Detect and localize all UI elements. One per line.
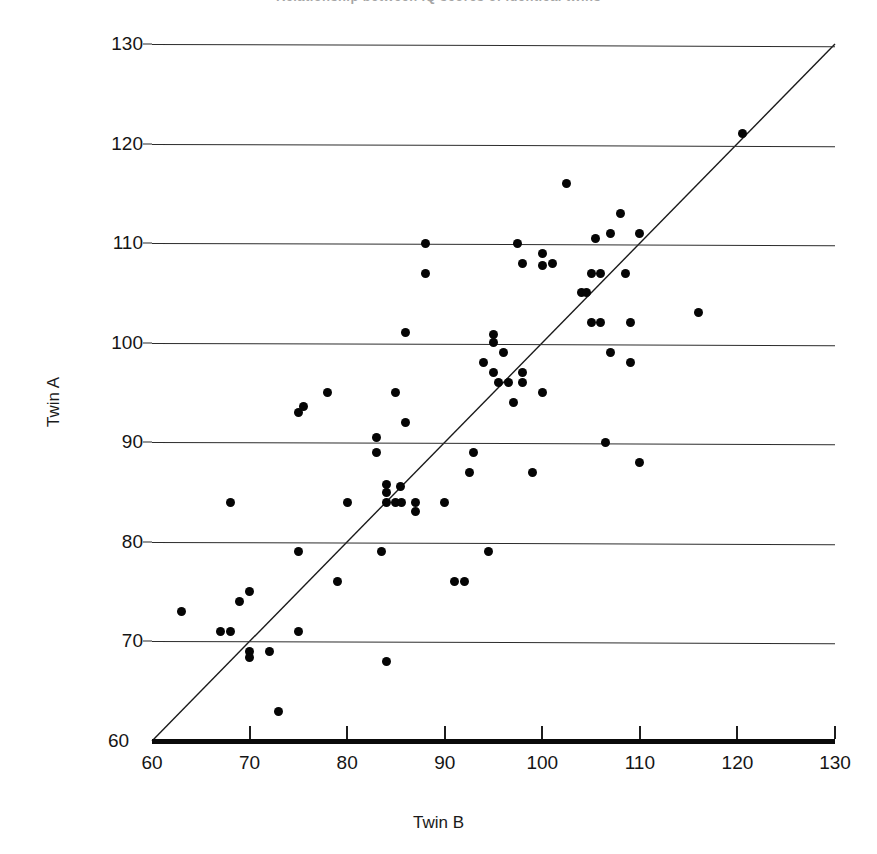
x-tick-label-110: 110 bbox=[625, 752, 655, 774]
data-point bbox=[538, 249, 547, 258]
data-point bbox=[538, 261, 547, 270]
data-point bbox=[465, 468, 474, 477]
x-tick-mark-110 bbox=[639, 726, 641, 739]
data-point bbox=[382, 488, 391, 497]
data-point bbox=[616, 209, 625, 218]
data-point bbox=[601, 438, 610, 447]
y-tick-label-90: 90 bbox=[122, 431, 143, 453]
y-tick-mark-80 bbox=[143, 541, 152, 542]
y-tick-mark-100 bbox=[143, 342, 152, 343]
x-axis-title: Twin B bbox=[0, 813, 877, 833]
data-point bbox=[382, 480, 391, 489]
data-point bbox=[382, 657, 391, 666]
data-point bbox=[421, 269, 430, 278]
data-point bbox=[372, 448, 381, 457]
data-point bbox=[499, 348, 508, 357]
x-tick-label-120: 120 bbox=[722, 752, 754, 774]
data-point bbox=[621, 269, 630, 278]
data-point bbox=[397, 498, 406, 507]
x-tick-mark-130 bbox=[834, 726, 836, 739]
data-point bbox=[372, 433, 381, 442]
data-point bbox=[440, 498, 449, 507]
scatter-plot-figure: 60708090100110120130 Twin A 60 Twin B 60… bbox=[0, 0, 877, 854]
y-tick-mark-90 bbox=[143, 442, 152, 443]
data-point bbox=[274, 707, 283, 716]
data-point bbox=[587, 318, 596, 327]
data-point bbox=[635, 458, 644, 467]
x-tick-mark-90 bbox=[444, 726, 446, 739]
data-point bbox=[635, 229, 644, 238]
data-point bbox=[294, 627, 303, 636]
data-point bbox=[538, 388, 547, 397]
identity-line bbox=[152, 44, 835, 741]
x-tick-label-80: 80 bbox=[337, 752, 358, 774]
data-point bbox=[216, 627, 225, 636]
data-point bbox=[382, 498, 391, 507]
x-tick-mark-80 bbox=[346, 726, 348, 739]
y-tick-mark-110 bbox=[143, 243, 152, 244]
x-tick-mark-120 bbox=[736, 726, 738, 739]
data-point bbox=[518, 259, 527, 268]
y-axis-title: Twin A bbox=[44, 342, 64, 462]
data-point bbox=[504, 378, 513, 387]
y-tick-label-80: 80 bbox=[122, 531, 143, 553]
data-point bbox=[606, 229, 615, 238]
data-point bbox=[513, 239, 522, 248]
plot-area bbox=[152, 44, 835, 741]
x-tick-label-100: 100 bbox=[526, 752, 558, 774]
data-point bbox=[528, 468, 537, 477]
y-origin-label: 60 bbox=[108, 730, 129, 752]
y-tick-mark-130 bbox=[143, 44, 152, 45]
data-point bbox=[343, 498, 352, 507]
data-point bbox=[411, 498, 420, 507]
data-point bbox=[226, 627, 235, 636]
data-point bbox=[562, 179, 571, 188]
y-tick-label-120: 120 bbox=[111, 133, 143, 155]
x-tick-mark-100 bbox=[541, 726, 543, 739]
data-point bbox=[421, 239, 430, 248]
data-point bbox=[587, 269, 596, 278]
data-point bbox=[494, 378, 503, 387]
x-tick-mark-70 bbox=[249, 726, 251, 739]
y-tick-label-130: 130 bbox=[111, 33, 143, 55]
y-axis: 60708090100110120130 bbox=[0, 0, 143, 854]
data-point bbox=[509, 398, 518, 407]
data-point bbox=[299, 402, 308, 411]
y-tick-mark-70 bbox=[143, 641, 152, 642]
data-point bbox=[738, 129, 747, 138]
data-point bbox=[489, 368, 498, 377]
data-point bbox=[626, 358, 635, 367]
data-point bbox=[333, 577, 342, 586]
y-tick-label-110: 110 bbox=[113, 232, 143, 254]
data-point bbox=[401, 418, 410, 427]
data-point bbox=[460, 577, 469, 586]
y-tick-label-70: 70 bbox=[122, 630, 143, 652]
data-point bbox=[548, 259, 557, 268]
data-point bbox=[396, 482, 405, 491]
data-point bbox=[245, 653, 254, 662]
y-tick-mark-120 bbox=[143, 143, 152, 144]
x-tick-label-70: 70 bbox=[239, 752, 260, 774]
data-point bbox=[226, 498, 235, 507]
x-tick-label-60: 60 bbox=[141, 752, 162, 774]
x-axis-line bbox=[152, 739, 835, 744]
data-point bbox=[177, 607, 186, 616]
x-tick-label-130: 130 bbox=[819, 752, 851, 774]
x-tick-label-90: 90 bbox=[434, 752, 455, 774]
y-tick-label-100: 100 bbox=[111, 332, 143, 354]
data-point bbox=[596, 269, 605, 278]
data-point bbox=[265, 647, 274, 656]
data-point bbox=[626, 318, 635, 327]
